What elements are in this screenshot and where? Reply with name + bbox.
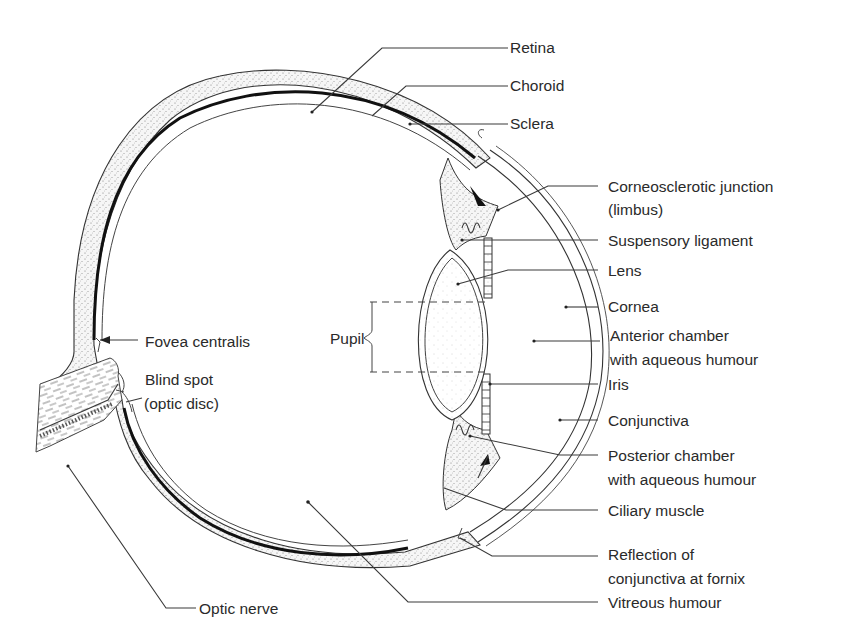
eye-diagram: Retina Choroid Sclera Corneosclerotic ju… bbox=[0, 0, 868, 641]
label-sclera: Sclera bbox=[510, 115, 554, 132]
label-cornea: Cornea bbox=[608, 298, 659, 315]
label-conjunctiva: Conjunctiva bbox=[608, 412, 689, 429]
label-reflection-line1: Reflection of bbox=[608, 546, 695, 563]
label-ciliary-muscle: Ciliary muscle bbox=[608, 502, 704, 519]
label-optic-nerve: Optic nerve bbox=[199, 600, 278, 617]
label-vitreous: Vitreous humour bbox=[608, 594, 721, 611]
label-suspensory-ligament: Suspensory ligament bbox=[608, 232, 753, 249]
label-blind-line2: (optic disc) bbox=[144, 395, 219, 412]
label-fovea: Fovea centralis bbox=[145, 333, 250, 350]
label-lens: Lens bbox=[608, 262, 642, 279]
label-choroid: Choroid bbox=[510, 77, 564, 94]
label-anterior-line1: Anterior chamber bbox=[610, 327, 729, 344]
label-limbus-line1: Corneosclerotic junction bbox=[608, 178, 773, 195]
label-limbus-line2: (limbus) bbox=[608, 201, 663, 218]
label-blind-line1: Blind spot bbox=[145, 371, 214, 388]
label-iris: Iris bbox=[608, 376, 629, 393]
label-posterior-line1: Posterior chamber bbox=[608, 447, 735, 464]
lens-shape bbox=[364, 250, 488, 420]
label-anterior-line2: with aqueous humour bbox=[609, 351, 758, 368]
label-reflection-line2: conjunctiva at fornix bbox=[608, 570, 745, 587]
optic-nerve-shape bbox=[36, 358, 132, 452]
label-pupil: Pupil bbox=[330, 330, 364, 347]
label-posterior-line2: with aqueous humour bbox=[607, 471, 756, 488]
label-retina: Retina bbox=[510, 39, 555, 56]
